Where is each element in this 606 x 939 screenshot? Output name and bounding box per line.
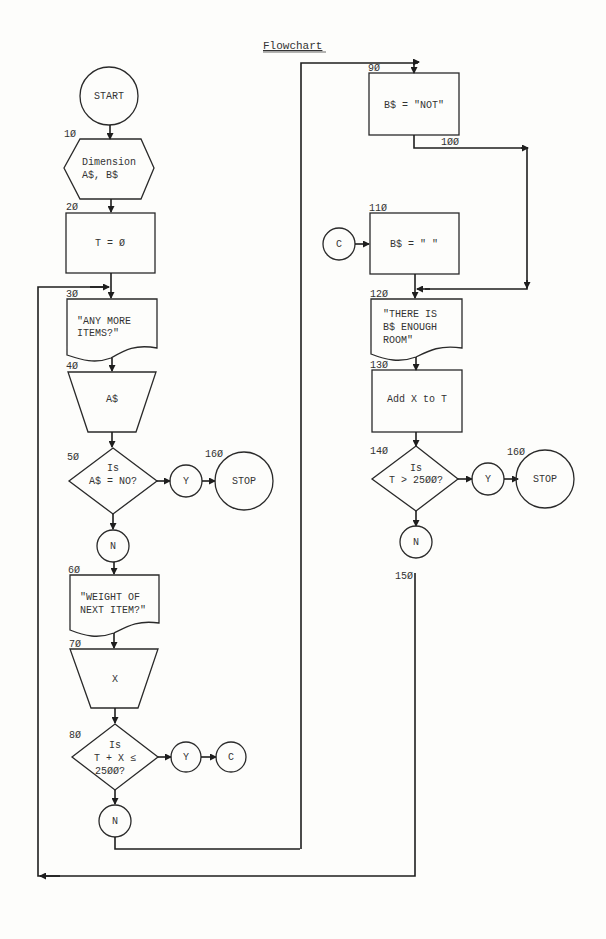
svg-text:A$, B$: A$, B$ bbox=[82, 170, 118, 181]
stop-terminal-left: 16Ø STOP bbox=[205, 449, 273, 510]
svg-text:A$ = NO?: A$ = NO? bbox=[89, 476, 137, 487]
step-90-set-not: 9Ø B$ = "NOT" bbox=[368, 63, 459, 135]
step-10-dimension: 1Ø Dimension A$, B$ bbox=[64, 129, 154, 199]
step-30-any-more-items: 3Ø "ANY MORE ITEMS?" bbox=[66, 289, 157, 361]
step-60-weight-prompt: 6Ø "WEIGHT OF NEXT ITEM?" bbox=[68, 565, 159, 636]
svg-text:STOP: STOP bbox=[533, 474, 557, 485]
flowchart-canvas: Flowchart START 1Ø Dimension A$, B$ 2Ø T… bbox=[0, 0, 606, 939]
connector-140-no: N bbox=[400, 526, 432, 558]
svg-text:2Ø: 2Ø bbox=[66, 202, 78, 213]
svg-text:5Ø: 5Ø bbox=[67, 452, 79, 463]
svg-text:Is: Is bbox=[109, 740, 121, 751]
stop-terminal-right: 16Ø STOP bbox=[507, 447, 574, 508]
svg-text:Is: Is bbox=[107, 463, 119, 474]
connector-80-c: C bbox=[216, 742, 246, 772]
svg-text:"THERE IS: "THERE IS bbox=[383, 309, 437, 320]
svg-text:B$ = "NOT": B$ = "NOT" bbox=[384, 100, 444, 111]
connector-80-no: N bbox=[99, 805, 131, 837]
svg-text:B$ ENOUGH: B$ ENOUGH bbox=[383, 322, 437, 333]
svg-text:15Ø: 15Ø bbox=[395, 571, 413, 582]
svg-text:START: START bbox=[94, 91, 124, 102]
svg-text:X: X bbox=[112, 674, 118, 685]
step-150-loop-back: 15Ø bbox=[395, 571, 413, 582]
svg-text:STOP: STOP bbox=[232, 476, 256, 487]
svg-text:ROOM": ROOM" bbox=[383, 335, 413, 346]
svg-text:1ØØ: 1ØØ bbox=[441, 137, 459, 148]
svg-text:A$: A$ bbox=[106, 394, 118, 405]
start-terminal: START bbox=[80, 67, 138, 125]
svg-text:8Ø: 8Ø bbox=[69, 730, 81, 741]
step-130-add-x-to-t: 13Ø Add X to T bbox=[370, 360, 462, 432]
svg-text:T + X ≤: T + X ≤ bbox=[94, 753, 136, 764]
svg-text:NEXT ITEM?": NEXT ITEM?" bbox=[80, 605, 146, 616]
step-120-room-message: 12Ø "THERE IS B$ ENOUGH ROOM" bbox=[370, 289, 462, 360]
svg-text:T > 25ØØ?: T > 25ØØ? bbox=[389, 475, 443, 486]
svg-text:T = Ø: T = Ø bbox=[95, 238, 125, 249]
svg-text:Add X to T: Add X to T bbox=[387, 394, 447, 405]
connector-50-yes: Y bbox=[170, 465, 202, 497]
svg-text:C: C bbox=[228, 752, 234, 763]
svg-text:Y: Y bbox=[183, 476, 189, 487]
connector-50-no: N bbox=[97, 530, 129, 562]
svg-text:ITEMS?": ITEMS?" bbox=[77, 328, 119, 339]
step-50-decision-a-no: 5Ø Is A$ = NO? bbox=[67, 448, 157, 514]
step-70-input-x: 7Ø X bbox=[69, 639, 158, 708]
step-110-set-blank: 11Ø B$ = " " bbox=[369, 203, 459, 274]
svg-text:C: C bbox=[336, 239, 342, 250]
svg-text:N: N bbox=[413, 537, 419, 548]
step-20-init-total: 2Ø T = Ø bbox=[66, 202, 155, 273]
svg-text:14Ø: 14Ø bbox=[370, 446, 388, 457]
svg-text:16Ø: 16Ø bbox=[205, 449, 223, 460]
svg-text:N: N bbox=[112, 816, 118, 827]
svg-text:Y: Y bbox=[183, 752, 189, 763]
page-title: Flowchart bbox=[263, 40, 322, 52]
svg-text:25ØØ?: 25ØØ? bbox=[95, 766, 125, 777]
svg-text:Y: Y bbox=[485, 474, 491, 485]
step-40-input-a: 4Ø A$ bbox=[66, 361, 156, 432]
step-100-goto: 1ØØ bbox=[441, 137, 459, 148]
svg-text:16Ø: 16Ø bbox=[507, 447, 525, 458]
step-80-decision-capacity: 8Ø Is T + X ≤ 25ØØ? bbox=[69, 724, 158, 790]
svg-text:4Ø: 4Ø bbox=[66, 361, 78, 372]
svg-text:"WEIGHT OF: "WEIGHT OF bbox=[80, 592, 140, 603]
connector-110-c: C bbox=[323, 228, 355, 260]
step-140-decision-overweight: 14Ø Is T > 25ØØ? bbox=[370, 446, 458, 511]
svg-text:B$ = " ": B$ = " " bbox=[390, 239, 438, 250]
svg-text:Is: Is bbox=[410, 463, 422, 474]
svg-text:Dimension: Dimension bbox=[82, 157, 136, 168]
svg-text:"ANY MORE: "ANY MORE bbox=[77, 316, 131, 327]
svg-text:1Ø: 1Ø bbox=[64, 129, 76, 140]
connector-140-yes: Y bbox=[472, 463, 504, 495]
connector-80-yes: Y bbox=[171, 742, 201, 772]
svg-text:N: N bbox=[110, 541, 116, 552]
flowchart-diagram: Flowchart START 1Ø Dimension A$, B$ 2Ø T… bbox=[0, 0, 606, 939]
svg-text:9Ø: 9Ø bbox=[368, 63, 380, 74]
